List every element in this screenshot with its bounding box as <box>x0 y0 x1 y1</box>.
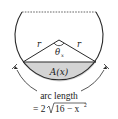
circular-segment-diagram: r r θ x A(x) arc length = 2 16 − x 2 <box>0 0 118 119</box>
radius-left-label: r <box>37 39 42 49</box>
radius-right-label: r <box>77 39 82 49</box>
arc-length-formula-radicand: 16 − x <box>55 104 80 114</box>
area-label: A(x) <box>49 67 69 77</box>
theta-label: θ <box>55 47 60 57</box>
angle-arc-marker <box>54 43 64 46</box>
arc-length-caption: arc length <box>40 91 78 101</box>
theta-subscript: x <box>61 52 64 58</box>
arc-length-formula-exponent: 2 <box>84 102 87 108</box>
arc-length-formula-prefix: = 2 <box>33 104 46 114</box>
